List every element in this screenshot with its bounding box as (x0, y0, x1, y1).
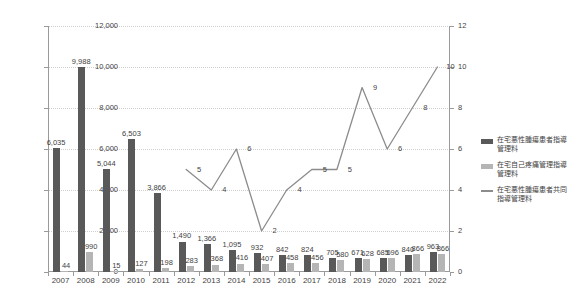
x-axis-tick (149, 272, 150, 276)
bar-group: 1,366368 (199, 26, 224, 272)
x-axis-tick (299, 272, 300, 276)
y-axis-right-label: 2 (458, 227, 488, 235)
x-axis-tick (350, 272, 351, 276)
x-axis-tick (450, 272, 451, 276)
y-axis-right-tick (450, 67, 454, 68)
bar-group: 5,04415 (98, 26, 123, 272)
x-axis-tick (224, 272, 225, 276)
y-axis-right-label: 8 (458, 104, 488, 112)
x-axis-tick-label: 2013 (199, 272, 224, 292)
bar-secondary[interactable] (262, 264, 269, 272)
bar-pair (350, 26, 375, 272)
bar-group: 963866 (425, 26, 450, 272)
bar-pair (400, 26, 425, 272)
bar-group: 6,503127 (123, 26, 148, 272)
legend-item-bar-b[interactable]: 在宅自己疼痛管理指導管理料 (481, 161, 571, 179)
y-axis-right-label: 0 (458, 268, 488, 276)
bar-secondary[interactable] (413, 254, 420, 272)
bar-pair (98, 26, 123, 272)
x-axis-tick-label: 2018 (324, 272, 349, 292)
bar-secondary[interactable] (86, 252, 93, 272)
x-axis-tick-label: 2009 (98, 272, 123, 292)
x-axis-tick-label: 2019 (350, 272, 375, 292)
legend-item-bar-a[interactable]: 在宅悪性腫瘍患者指導管理料 (481, 136, 571, 154)
bar-pair (224, 26, 249, 272)
legend-swatch-icon (481, 139, 493, 144)
x-axis-tick-label: 2015 (249, 272, 274, 292)
x-axis-tick (174, 272, 175, 276)
x-axis-tick-label: 2016 (274, 272, 299, 292)
bar-secondary[interactable] (438, 254, 445, 272)
x-axis-tick (199, 272, 200, 276)
chart-legend: 在宅悪性腫瘍患者指導管理料 在宅自己疼痛管理指導管理料 在宅悪性腫瘍患者共同指導… (481, 136, 571, 211)
chart-container: 12,000 10,000 8,000 6,000 4,000 2,000 0 … (0, 0, 572, 300)
bar-pair (324, 26, 349, 272)
x-axis-tick-label: 2010 (123, 272, 148, 292)
y-axis-right-tick (450, 231, 454, 232)
bar-primary[interactable] (329, 258, 336, 273)
bar-pair (299, 26, 324, 272)
bar-group: 685696 (375, 26, 400, 272)
legend-label: 在宅悪性腫瘍患者指導管理料 (497, 136, 571, 154)
bar-primary[interactable] (430, 252, 437, 272)
bar-group: 671628 (350, 26, 375, 272)
bar-group: 705580 (324, 26, 349, 272)
bar-pair (375, 26, 400, 272)
bar-group: 9,988990 (73, 26, 98, 272)
bar-group: 842458 (274, 26, 299, 272)
x-axis-tick (98, 272, 99, 276)
x-axis-tick-label: 2008 (73, 272, 98, 292)
legend-line-icon (481, 190, 493, 192)
bar-primary[interactable] (355, 258, 362, 272)
x-axis-tick (375, 272, 376, 276)
bar-primary[interactable] (128, 139, 135, 272)
bar-secondary[interactable] (287, 263, 294, 272)
x-axis-tick (249, 272, 250, 276)
y-axis-right-tick (450, 108, 454, 109)
y-axis-right-tick (450, 26, 454, 27)
bar-pair (425, 26, 450, 272)
bar-secondary[interactable] (212, 265, 219, 273)
x-axis-tick-label: 2011 (149, 272, 174, 292)
x-axis-tick (123, 272, 124, 276)
x-axis-tick-label: 2007 (48, 272, 73, 292)
bar-secondary[interactable] (388, 258, 395, 272)
x-axis-tick-label: 2012 (174, 272, 199, 292)
x-axis-tick-label: 2022 (425, 272, 450, 292)
bar-group: 840866 (400, 26, 425, 272)
y-axis-right-label: 10 (458, 63, 488, 71)
bar-pair (274, 26, 299, 272)
x-axis-tick (274, 272, 275, 276)
bar-primary[interactable] (405, 255, 412, 272)
x-axis-tick (425, 272, 426, 276)
bar-pair (249, 26, 274, 272)
bar-primary[interactable] (53, 148, 60, 272)
x-axis-tick (324, 272, 325, 276)
y-axis-right-label: 12 (458, 22, 488, 30)
legend-swatch-icon (481, 164, 493, 169)
x-axis-tick (48, 272, 49, 276)
bar-pair (123, 26, 148, 272)
bar-secondary[interactable] (337, 260, 344, 272)
bar-group: 824456 (299, 26, 324, 272)
bar-primary[interactable] (380, 258, 387, 272)
bar-secondary[interactable] (363, 259, 370, 272)
legend-label: 在宅自己疼痛管理指導管理料 (497, 161, 571, 179)
legend-label: 在宅悪性腫瘍患者共同指導管理料 (497, 186, 571, 204)
bar-value-label: 866 (420, 245, 466, 253)
bar-series-group: 6,035449,9889905,044156,5031273,8661981,… (48, 26, 450, 272)
bar-secondary[interactable] (237, 264, 244, 273)
x-axis-tick-label: 2020 (375, 272, 400, 292)
bar-group: 932407 (249, 26, 274, 272)
bar-group: 1,095416 (224, 26, 249, 272)
legend-item-line[interactable]: 在宅悪性腫瘍患者共同指導管理料 (481, 186, 571, 204)
x-axis-tick-label: 2017 (299, 272, 324, 292)
x-axis-tick (73, 272, 74, 276)
x-axis-tick-label: 2014 (224, 272, 249, 292)
y-axis-right-tick (450, 149, 454, 150)
x-axis-tick-label: 2021 (400, 272, 425, 292)
bar-primary[interactable] (103, 169, 110, 272)
y-axis-right-tick (450, 190, 454, 191)
x-axis-labels: 2007200820092010201120122013201420152016… (48, 272, 450, 292)
bar-secondary[interactable] (312, 263, 319, 272)
